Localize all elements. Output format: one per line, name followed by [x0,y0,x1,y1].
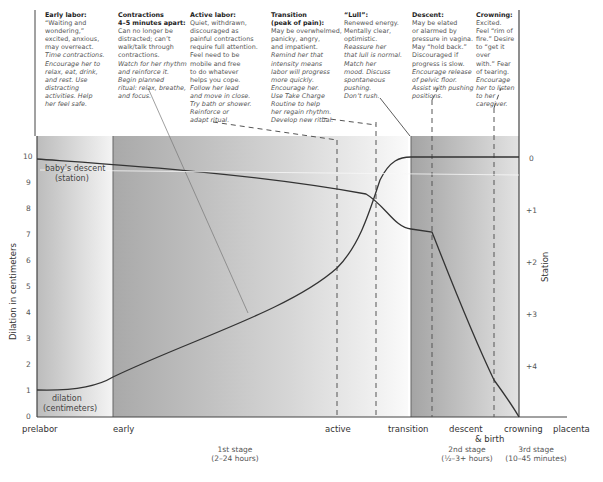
note-text: pressure in vagina. [412,35,473,43]
phase-prelabor: prelabor [22,424,58,434]
note-advice: Develop new ritual. [271,116,333,124]
phase-placenta: placenta [553,424,590,434]
note-advice: relax, eat, drink, [45,68,98,76]
dilation-curve-label: (centimeters) [43,404,97,413]
stage-3: 3rd stage (10–45 minutes) [500,445,572,463]
note-text: excited, anxious, [45,35,99,43]
note-text: Quiet, withdrawn, [190,19,247,27]
note-advice: and rest. Use [45,76,87,84]
note-early-labor: Early labor: “Waiting and wondering,” ex… [45,11,113,108]
note-advice: and move in close. [190,92,250,100]
note-advice: spontaneous [344,76,385,84]
note-text: of tearing. [476,68,509,76]
note-advice: and focus. [118,92,151,100]
note-advice: her feel safe. [45,100,87,108]
y-axis-label: Dilation in centimeters [8,243,18,340]
note-descent: Descent: May be elated or alarmed by pre… [412,11,480,100]
note-advice: Encourage her. [271,84,319,92]
stage-name: 2nd stage [436,445,498,454]
note-text: or alarmed by [412,27,457,35]
y-tick: 3 [26,334,31,343]
note-advice: Encourage [476,76,510,84]
note-text: walk/talk through [118,43,174,51]
note-advice: Reinforce or [190,108,229,116]
note-advice: her to listen [476,84,514,92]
station-tick: +4 [526,362,537,371]
note-text: Excited. [476,19,502,27]
note-advice: Encourage release [412,68,472,76]
note-advice: Reassure her [344,43,386,51]
second-stage-region [411,136,519,417]
note-advice: distracting [45,84,79,92]
dilation-curve-label: dilation [52,394,82,403]
station-tick: +2 [526,258,537,267]
stage-1: 1st stage (2–24 hours) [200,445,270,463]
note-text: May “hold back.” [412,43,467,51]
note-text: Feel “rim of [476,27,513,35]
station-tick: +3 [526,310,537,319]
descent-curve-label: (station) [55,174,89,183]
note-title: 4–5 minutes apart: [118,19,190,27]
note-advice: her regain rhythm. [271,108,331,116]
note-text: distracted; can’t [118,35,170,43]
note-text: with.” Fear [476,60,511,68]
note-advice: Assist with pushing [412,84,474,92]
stage-name: 1st stage [200,445,270,454]
y-tick: 2 [26,360,31,369]
note-text: to do whatever [190,68,238,76]
y-tick: 10 [23,152,33,161]
descent-curve-label: baby's descent [45,164,105,173]
note-text: helps you cope. [190,76,240,84]
phase-early: early [113,424,134,434]
y-tick: 0 [26,412,31,421]
note-text: to “get it over [476,43,505,59]
note-title: Transition [271,11,345,19]
note-text: Discouraged if [412,51,458,59]
note-advice: Remind her that [271,51,323,59]
note-transition: Transition (peak of pain): May be overwh… [271,11,345,124]
stage-duration: (10–45 minutes) [500,454,572,463]
phase-birth: & birth [475,434,504,444]
note-title: Contractions [118,11,190,19]
y-tick: 5 [26,282,31,291]
note-advice: Don’t rush. [344,92,380,100]
note-text: mobile and free [190,60,240,68]
note-text: fire.” Desire [476,35,514,43]
note-text: Renewed energy. [344,19,399,27]
station-tick: 0 [529,154,534,163]
y-tick: 4 [26,308,31,317]
note-advice: Time contractions. [45,51,105,59]
note-text: discouraged as [190,27,239,35]
note-text: contractions. [118,51,160,59]
note-text: progress is slow. [412,60,464,68]
note-lull: “Lull”: Renewed energy. Mentally clear, … [344,11,406,100]
note-text: may overreact. [45,43,93,51]
y-tick: 1 [26,386,31,395]
note-advice: more quickly. [271,76,314,84]
stage-duration: (2–24 hours) [200,454,270,463]
note-title: Active labor: [190,11,264,19]
note-advice: ritual: relax, breathe, [118,84,186,92]
note-text: Feel need to be [190,51,239,59]
station-tick: +1 [526,206,537,215]
y-tick: 8 [26,204,31,213]
note-title: (peak of pain): [271,19,345,27]
note-advice: pushing. [344,84,371,92]
stage-2: 2nd stage (½–3+ hours) [436,445,498,463]
note-advice: Begin planned [118,76,164,84]
note-text: Mentally clear, [344,27,391,35]
note-crowning: Crowning: Excited. Feel “rim of fire.” D… [476,11,520,108]
note-text: require full attention. [190,43,258,51]
note-advice: Routine to help [271,100,320,108]
note-advice: labor will progress [271,68,330,76]
stage-name: 3rd stage [500,445,572,454]
note-text: Can no longer be [118,27,173,35]
note-advice: that lull is normal. [344,51,402,59]
y2-axis-label: Station [540,252,550,282]
note-text: and impatient. [271,43,318,51]
note-text: optimistic. [344,35,377,43]
note-contractions: Contractions 4–5 minutes apart: Can no l… [118,11,190,100]
note-text: May be overwhelmed, [271,27,342,35]
y-tick: 9 [26,178,31,187]
note-text: painful contractions [190,35,254,43]
